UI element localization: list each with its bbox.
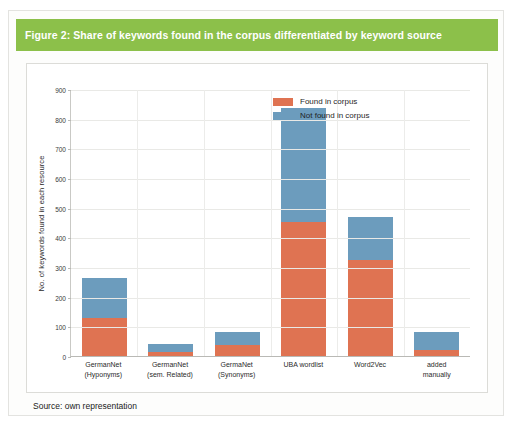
x-gridline [137,90,138,356]
x-axis-tick-label: addedmanually [403,360,470,379]
bar-slot [204,90,271,356]
x-axis-tick-label-line [270,370,337,380]
x-axis-tick-label-line: GermanNet [70,360,137,370]
chart-legend: Found in corpus Not found in corpus [273,97,369,120]
figure-source-note: Source: own representation [33,401,137,411]
legend-swatch-found-icon [273,98,293,106]
x-axis-tick-label-line: GermaNet [203,360,270,370]
bar-segment-not-found[interactable] [215,332,260,345]
y-axis-tick-label: 500 [55,205,66,212]
stacked-bar[interactable] [281,108,326,356]
stacked-bar[interactable] [82,278,127,356]
y-axis-tick-label: 600 [55,176,66,183]
x-axis-tick-label-line [337,370,404,380]
x-axis-tick-label-line: added [403,360,470,370]
stacked-bar[interactable] [148,344,193,356]
figure-card: Figure 2: Share of keywords found in the… [8,10,504,416]
y-axis-tick-mark [68,357,71,358]
y-axis-tick-label: 700 [55,146,66,153]
bar-segment-not-found[interactable] [414,332,459,350]
y-axis-tick-mark [68,268,71,269]
x-axis-tick-label: Word2Vec [337,360,404,379]
bar-segment-not-found[interactable] [148,344,193,352]
x-axis-tick-label: UBA wordlist [270,360,337,379]
x-axis-tick-label-line: Word2Vec [337,360,404,370]
y-axis-tick-label: 300 [55,265,66,272]
x-axis-tick-label-line: manually [403,370,470,380]
bar-segment-found[interactable] [215,345,260,356]
y-axis-tick-label: 100 [55,324,66,331]
bar-segment-found[interactable] [348,260,393,356]
legend-item-not-found: Not found in corpus [273,111,369,120]
y-axis-tick-mark [68,238,71,239]
bar-segment-found[interactable] [82,318,127,356]
y-axis-tick-mark [68,179,71,180]
legend-swatch-not-found-icon [273,112,293,120]
y-axis-tick-mark [68,149,71,150]
x-axis-tick-label: GermaNet(Synonyms) [203,360,270,379]
bar-segment-found[interactable] [148,352,193,356]
legend-label-not-found: Not found in corpus [300,111,369,120]
x-axis-tick-label-line: (sem. Related) [137,370,204,380]
y-axis-tick-mark [68,298,71,299]
y-axis-tick-label: 0 [62,354,66,361]
stacked-bar[interactable] [414,332,459,356]
x-axis-tick-label-line: GermanNet [137,360,204,370]
bar-segment-found[interactable] [414,350,459,356]
x-gridline [271,90,272,356]
y-axis-label-text: No. of keywords found in each resource [38,156,47,292]
figure-title: Figure 2: Share of keywords found in the… [16,29,442,41]
x-axis-labels: GermanNet(Hyponyms)GermanNet(sem. Relate… [70,360,470,379]
legend-item-found: Found in corpus [273,97,369,106]
stacked-bar[interactable] [215,332,260,356]
x-axis-tick-label-line: (Hyponyms) [70,370,137,380]
y-axis-tick-mark [68,90,71,91]
x-axis-tick-label-line: UBA wordlist [270,360,337,370]
bar-slot [71,90,138,356]
plot-area: 0100200300400500600700800900 [70,90,470,357]
figure-header-bar: Figure 2: Share of keywords found in the… [16,19,498,51]
bar-slot [271,90,338,356]
x-axis-tick-label: GermanNet(sem. Related) [137,360,204,379]
bar-segment-found[interactable] [281,222,326,356]
x-axis-tick-label-line: (Synonyms) [203,370,270,380]
y-axis-tick-label: 400 [55,235,66,242]
y-axis-tick-label: 800 [55,116,66,123]
bar-segment-not-found[interactable] [281,108,326,221]
x-gridline [337,90,338,356]
y-axis-tick-mark [68,209,71,210]
y-axis-tick-label: 200 [55,294,66,301]
chart-panel: No. of keywords found in each resource 0… [26,63,488,393]
legend-label-found: Found in corpus [300,97,357,106]
x-gridline [204,90,205,356]
x-axis-tick-label: GermanNet(Hyponyms) [70,360,137,379]
bar-slot [337,90,404,356]
y-axis-tick-mark [68,327,71,328]
x-gridline [404,90,405,356]
y-axis-label: No. of keywords found in each resource [35,90,49,357]
bar-slot [404,90,471,356]
y-axis-tick-mark [68,120,71,121]
bar-slot [138,90,205,356]
y-axis-tick-label: 900 [55,87,66,94]
